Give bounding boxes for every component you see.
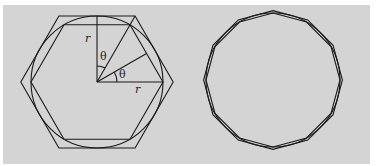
- diagram-canvas: r θ θ r: [0, 0, 377, 166]
- label-r-horizontal: r: [135, 83, 141, 96]
- label-r-vertical: r: [85, 32, 91, 45]
- figure-panel: r θ θ r: [0, 0, 377, 166]
- label-theta-upper: θ: [100, 50, 107, 63]
- label-theta-lower: θ: [119, 68, 126, 81]
